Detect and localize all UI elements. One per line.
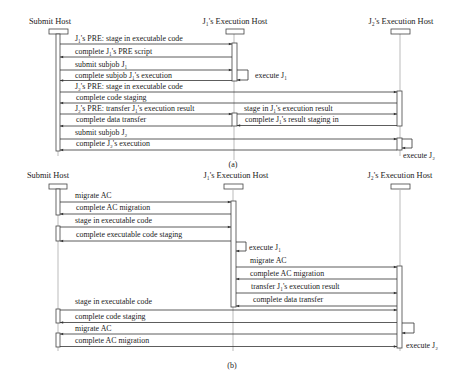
self-call-execute-j1: execute J₁ xyxy=(237,70,287,80)
message-arrow: complete AC migration xyxy=(60,203,231,214)
lifeline-head-box xyxy=(391,29,410,34)
message-arrow: complete code staging xyxy=(60,93,397,104)
message-label: stage in executable code xyxy=(75,297,152,306)
message-label: migrate AC xyxy=(75,191,112,200)
activation-bar xyxy=(56,34,60,151)
message-arrow: J₁'s PRE: stage in executable code xyxy=(60,34,232,45)
lifeline-label: Submit Host xyxy=(29,17,72,26)
message-label: complete J₁'s PRE script xyxy=(75,47,153,56)
message-arrow: complete subjob J₁'s execution xyxy=(60,71,232,81)
message-arrow: complete AC migration xyxy=(60,336,397,347)
self-call-execute-j1: execute J₁ xyxy=(236,242,281,252)
lifeline-submit-host: Submit Host xyxy=(27,171,70,351)
message-label: J₂'s PRE: stage in executable code xyxy=(75,82,183,91)
activation-bar xyxy=(232,113,237,126)
lifeline-head-box xyxy=(391,184,410,189)
lifeline-label: J₂'s Execution Host xyxy=(369,17,435,26)
activation-bar xyxy=(56,189,60,215)
message-arrow: migrate AC xyxy=(60,324,397,334)
self-call-label: execute J₁ xyxy=(249,243,281,252)
message-label: stage in executable code xyxy=(75,216,152,225)
self-call-execute-j2: execute J₂ xyxy=(402,323,438,350)
lifeline-label: Submit Host xyxy=(27,171,70,180)
message-label: migrate AC xyxy=(250,256,287,265)
lifeline-label: J₁'s Execution Host xyxy=(203,17,269,26)
message-label: complete AC migration xyxy=(75,336,149,345)
diagram-a: Submit Host J₁'s Execution Host J₂'s Exe… xyxy=(29,17,435,169)
message-arrow: migrate AC xyxy=(60,191,231,202)
self-call-label: execute J₁ xyxy=(255,71,287,80)
message-label: complete J₂'s execution xyxy=(76,139,150,148)
activation-bar xyxy=(231,201,236,307)
self-call-execute-j2: execute J₂ xyxy=(402,139,435,160)
caption-b: (b) xyxy=(227,361,237,370)
message-arrow: transfer J₁'s execution result xyxy=(236,282,397,293)
lifeline-head-box xyxy=(226,29,244,34)
message-arrow: submit subjob J₂ xyxy=(60,128,397,139)
message-label: complete AC migration xyxy=(250,269,324,278)
message-arrow: stage in J₁'s execution result xyxy=(237,104,397,115)
message-label: J₂'s PRE: transfer J₁'s execution result xyxy=(75,104,195,113)
message-arrow: complete J₂'s execution xyxy=(60,139,397,150)
message-label: migrate AC xyxy=(75,324,112,333)
message-label: complete code staging xyxy=(76,93,147,102)
sequence-diagrams: Submit Host J₁'s Execution Host J₂'s Exe… xyxy=(0,0,467,384)
message-label: complete code staging xyxy=(75,312,146,321)
message-arrow: complete data transfer xyxy=(60,115,232,126)
activation-bar xyxy=(397,138,402,150)
message-label: complete subjob J₁'s execution xyxy=(75,71,172,80)
message-label: complete data transfer xyxy=(76,115,146,124)
self-call-label: execute J₂ xyxy=(403,151,435,160)
self-call-label: execute J₂ xyxy=(406,341,438,350)
message-label: submit subjob J₁ xyxy=(75,60,128,69)
activation-bar xyxy=(56,309,60,323)
lifeline-head-box xyxy=(49,29,68,34)
diagram-b: Submit Host J₁'s Execution Host J₂'s Exe… xyxy=(27,171,438,370)
message-arrow: stage in executable code xyxy=(60,297,397,310)
activation-bar xyxy=(397,266,402,348)
message-arrow: submit subjob J₁ xyxy=(60,60,232,71)
activation-bar xyxy=(232,43,237,81)
message-label: transfer J₁'s execution result xyxy=(251,282,340,291)
lifeline-submit-host: Submit Host xyxy=(29,17,72,156)
caption-a: (a) xyxy=(229,160,238,169)
message-arrow: complete data transfer xyxy=(236,295,397,306)
lifeline-j1-execution-host: J₁'s Execution Host xyxy=(203,17,269,160)
lifeline-j2-execution-host: J₂'s Execution Host xyxy=(368,171,434,351)
message-label: stage in J₁'s execution result xyxy=(244,104,334,113)
lifeline-head-box xyxy=(49,184,67,189)
lifeline-label: J₂'s Execution Host xyxy=(368,171,434,180)
message-arrow: migrate AC xyxy=(236,256,397,267)
message-label: complete executable code staging xyxy=(76,230,182,239)
lifeline-label: J₁'s Execution Host xyxy=(204,171,270,180)
lifeline-head-box xyxy=(224,184,243,189)
message-label: complete data transfer xyxy=(253,295,323,304)
message-arrow: stage in executable code xyxy=(60,216,231,227)
message-label: complete J₁'s result staging in xyxy=(245,115,339,124)
activation-bar xyxy=(56,226,60,241)
activation-bar xyxy=(397,91,402,126)
message-arrow: complete AC migration xyxy=(236,269,397,280)
message-label: J₁'s PRE: stage in executable code xyxy=(75,34,183,43)
message-arrow: J₂'s PRE: transfer J₁'s execution result xyxy=(60,104,232,115)
message-arrow: complete J₁'s PRE script xyxy=(60,47,232,58)
message-arrow: complete J₁'s result staging in xyxy=(237,115,397,126)
message-label: complete AC migration xyxy=(76,203,150,212)
message-arrow: complete executable code staging xyxy=(60,230,231,242)
lifeline-j2-execution-host: J₂'s Execution Host xyxy=(369,17,435,156)
activation-bar xyxy=(56,333,60,347)
message-label: submit subjob J₂ xyxy=(75,128,128,137)
message-arrow: J₂'s PRE: stage in executable code xyxy=(60,82,397,93)
message-arrow: complete code staging xyxy=(60,312,397,323)
